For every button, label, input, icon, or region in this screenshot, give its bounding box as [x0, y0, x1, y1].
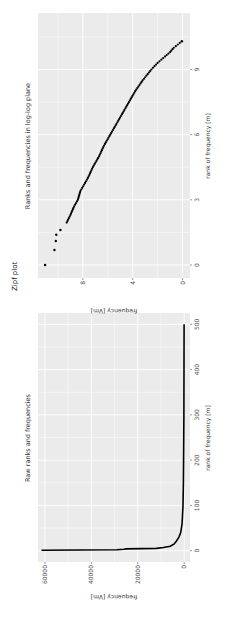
svg-text:0: 0: [180, 565, 187, 569]
log-y-axis-title: frequency [Vm]: [91, 307, 138, 315]
svg-text:4: 4: [129, 281, 136, 285]
log-x-ticks: 0369: [190, 67, 200, 266]
zipf-plot-label: Zipf plot: [11, 261, 19, 291]
svg-text:0: 0: [179, 281, 186, 285]
svg-text:40000: 40000: [87, 565, 94, 584]
raw-y-axis-title: frequency [Vm]: [91, 593, 138, 601]
svg-text:20000: 20000: [134, 565, 141, 584]
raw-chart-title: Raw ranks and frequencies: [24, 393, 32, 482]
svg-text:100: 100: [193, 500, 200, 512]
svg-text:500: 500: [193, 318, 200, 330]
log-x-axis-title: rank of frequency [m]: [204, 113, 212, 179]
charts-canvas: 0100200300400500 0200004000060000 Raw ra…: [0, 0, 231, 631]
svg-text:8: 8: [79, 281, 86, 285]
log-plot-area: [38, 13, 190, 278]
svg-text:60000: 60000: [41, 565, 48, 584]
raw-ranks-chart: 0100200300400500 0200004000060000 Raw ra…: [24, 313, 212, 601]
svg-text:300: 300: [193, 409, 200, 421]
raw-y-ticks: 0200004000060000: [41, 562, 187, 584]
rotated-document-page: 0100200300400500 0200004000060000 Raw ra…: [0, 0, 231, 631]
raw-x-ticks: 0100200300400500: [190, 318, 200, 552]
svg-text:3: 3: [193, 198, 200, 202]
svg-text:6: 6: [193, 133, 200, 137]
log-y-ticks: 048: [79, 278, 186, 285]
log-chart-title: Ranks and frequencies in log-log plane: [24, 83, 32, 209]
svg-text:400: 400: [193, 364, 200, 376]
svg-text:200: 200: [193, 454, 200, 466]
svg-text:9: 9: [193, 67, 200, 71]
svg-text:0: 0: [193, 263, 200, 267]
svg-text:0: 0: [193, 549, 200, 553]
log-log-chart: Zipf plot 0369 048 Ranks and frequencies…: [11, 13, 212, 315]
raw-x-axis-title: rank of frequency [m]: [204, 405, 212, 471]
